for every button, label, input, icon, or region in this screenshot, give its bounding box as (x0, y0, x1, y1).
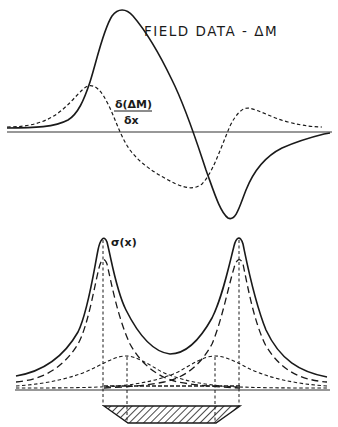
sigma-total-curve (16, 238, 327, 377)
svg-text:δx: δx (124, 114, 139, 127)
bottom-panel: σ(x) (15, 236, 330, 423)
hatched-source-body (104, 406, 240, 423)
svg-text:δ(ΔM): δ(ΔM) (115, 98, 152, 111)
sigma-label: σ(x) (111, 236, 137, 249)
vertical-projections (103, 240, 239, 423)
derivative-curve (7, 86, 322, 188)
inner-contribution-left (16, 356, 327, 388)
top-panel: FIELD DATA - ΔM δ(ΔM) δx (7, 10, 332, 219)
inner-contribution-right (16, 356, 327, 388)
derivative-label: δ(ΔM) δx (114, 98, 152, 127)
edge-contribution-left (16, 260, 240, 388)
magnetic-interpretation-diagram: FIELD DATA - ΔM δ(ΔM) δx σ(x) (0, 0, 338, 427)
field-data-label: FIELD DATA - ΔM (144, 23, 278, 39)
